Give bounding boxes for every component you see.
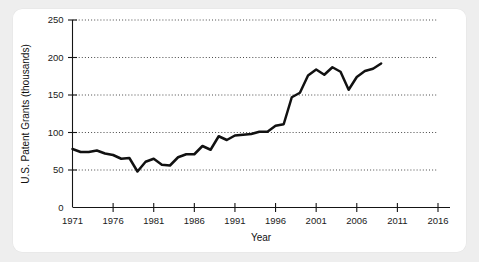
patent-grants-line-chart: 050100150200250 197119761981198619911996… xyxy=(13,9,466,252)
y-tick-label-150: 150 xyxy=(48,89,64,100)
chart-card: 050100150200250 197119761981198619911996… xyxy=(13,9,466,252)
y-axis-title: U.S. Patent Grants (thousands) xyxy=(20,44,31,184)
x-tick-label-1996: 1996 xyxy=(265,215,286,226)
y-tick-labels-group: 050100150200250 xyxy=(48,14,64,213)
x-tick-label-1971: 1971 xyxy=(62,215,83,226)
x-tick-labels-group: 1971197619811986199119962001200620112016 xyxy=(62,215,449,226)
y-tick-label-50: 50 xyxy=(53,164,64,175)
patent-grants-data-line xyxy=(73,64,382,172)
y-tick-label-200: 200 xyxy=(48,52,64,63)
x-tick-label-1991: 1991 xyxy=(224,215,245,226)
y-tick-label-250: 250 xyxy=(48,14,64,25)
x-tick-label-2001: 2001 xyxy=(306,215,327,226)
x-tick-label-1986: 1986 xyxy=(184,215,205,226)
x-tick-label-2016: 2016 xyxy=(427,215,448,226)
y-tick-label-100: 100 xyxy=(48,127,64,138)
y-tick-label-0: 0 xyxy=(58,202,63,213)
x-axis-title: Year xyxy=(251,232,272,243)
gridlines-group xyxy=(73,20,439,170)
x-tick-label-1981: 1981 xyxy=(143,215,164,226)
x-tick-label-2011: 2011 xyxy=(387,215,407,226)
x-tick-label-1976: 1976 xyxy=(103,215,124,226)
x-tick-label-2006: 2006 xyxy=(346,215,367,226)
